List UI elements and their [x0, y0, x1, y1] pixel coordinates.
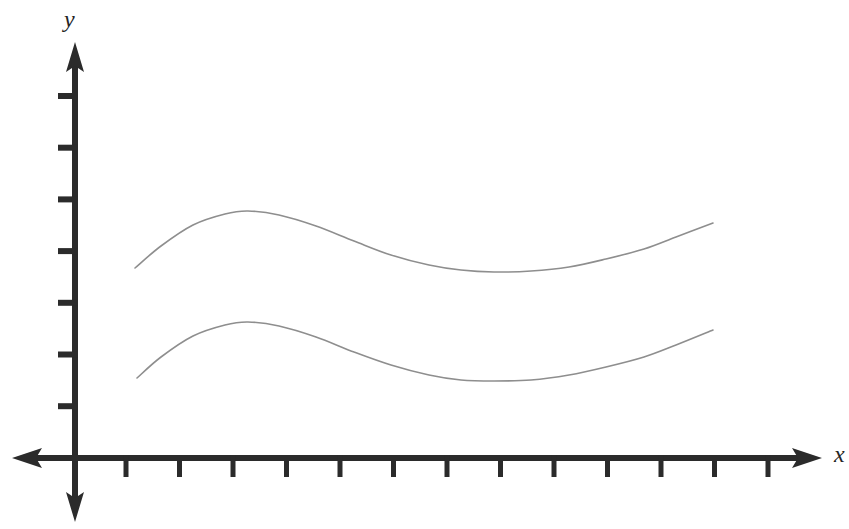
y-axis-group [58, 42, 84, 522]
lower-curve-path [137, 322, 713, 381]
x-axis-label: x [834, 441, 845, 468]
figure-canvas: y x [0, 0, 849, 529]
upper-curve-path [135, 211, 713, 272]
x-axis-group [12, 448, 822, 477]
coordinate-plane-svg [0, 0, 849, 529]
curves-group [135, 211, 713, 381]
y-axis-label: y [64, 6, 75, 33]
